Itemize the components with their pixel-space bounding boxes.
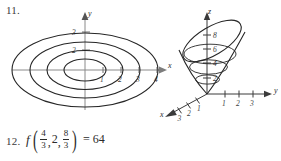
paraboloid-body	[177, 12, 248, 94]
paraboloid-surface-figure: 2 4 6 8 1 2 3 1 2 3 y z	[160, 4, 281, 122]
argument-3-fraction: 8 3	[63, 129, 70, 150]
argument-1-denominator: 3	[40, 141, 47, 150]
contour-y-ticks	[82, 32, 90, 50]
function-name: f	[26, 132, 30, 148]
argument-1-fraction: 4 3	[40, 129, 47, 150]
trace-z-6	[184, 44, 236, 64]
surface-xtick-3: 3	[177, 114, 182, 123]
surface-ztick-8: 8	[213, 31, 217, 40]
comma-1: ,	[48, 135, 51, 151]
contour-ytick-2: 2	[72, 46, 76, 55]
surface-xtick-2: 2	[187, 109, 191, 118]
open-paren: (	[33, 128, 38, 151]
surface-ytick-2: 2	[236, 99, 240, 108]
surface-ztick-6: 6	[213, 45, 217, 54]
surface-ytick-3: 3	[249, 99, 254, 108]
problem-12-number: 12.	[6, 135, 20, 147]
surface-z-axis	[204, 12, 210, 94]
argument-3-denominator: 3	[63, 141, 70, 150]
contour-plot-figure: 1 2 3 4 2 3 x y	[8, 6, 174, 118]
contour-ytick-3: 3	[71, 28, 76, 37]
surface-xtick-1: 1	[197, 104, 201, 113]
surface-z-axis-label: z	[207, 7, 212, 16]
surface-y-axis-label: y	[273, 86, 278, 95]
surface-x-axis-label: x	[159, 110, 164, 119]
paraboloid-top-rim	[177, 12, 248, 70]
equals-sign: =	[83, 132, 90, 147]
problem-12-expression: f ( 4 3 , 2 , 8 3 ) = 64	[26, 128, 105, 151]
answer-page: 11. 1 2 3 4	[0, 0, 281, 161]
argument-3-numerator: 8	[63, 129, 70, 138]
contour-y-axis-label: y	[87, 9, 92, 18]
contour-y-axis	[82, 12, 89, 110]
result-value: 64	[93, 132, 105, 147]
contour-x-axis	[12, 67, 167, 74]
surface-ytick-1: 1	[222, 99, 226, 108]
argument-1-numerator: 4	[40, 129, 47, 138]
comma-2: ,	[58, 135, 61, 151]
close-paren: )	[72, 128, 77, 151]
